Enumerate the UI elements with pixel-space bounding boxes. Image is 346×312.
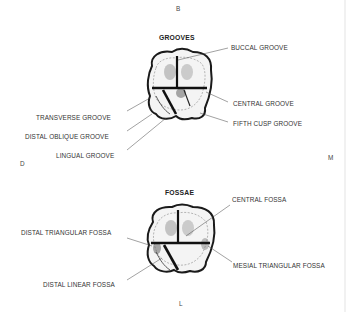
label-central-groove: CENTRAL GROOVE — [233, 100, 294, 107]
label-distal-triangular-fossa: DISTAL TRIANGULAR FOSSA — [21, 229, 111, 236]
label-transverse-groove: TRANSVERSE GROOVE — [36, 114, 111, 121]
label-buccal-groove: BUCCAL GROOVE — [231, 44, 288, 51]
fossae-tooth-illustration — [127, 205, 232, 280]
label-mesial-triangular-fossa: MESIAL TRIANGULAR FOSSA — [233, 262, 325, 269]
label-distal-linear-fossa: DISTAL LINEAR FOSSA — [43, 281, 115, 288]
grooves-tooth-illustration — [127, 48, 228, 150]
grooves-title: GROOVES — [159, 34, 195, 41]
fossae-title: FOSSAE — [165, 189, 194, 196]
label-fifth-cusp-groove: FIFTH CUSP GROOVE — [233, 120, 302, 127]
label-distal-oblique-groove: DISTAL OBLIQUE GROOVE — [25, 133, 109, 140]
label-lingual-groove: LINGUAL GROOVE — [56, 152, 114, 159]
label-central-fossa: CENTRAL FOSSA — [232, 196, 286, 203]
